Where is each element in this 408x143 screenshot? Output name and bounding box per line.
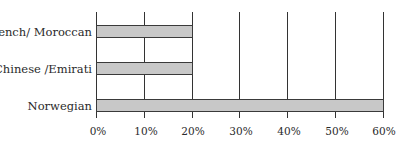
bar-chinese-emirati bbox=[96, 62, 193, 75]
x-tick-label: 0% bbox=[90, 125, 107, 137]
horizontal-bar-chart: French/ Moroccan Chinese /Emirati Norweg… bbox=[0, 0, 408, 143]
x-tick-label: 60% bbox=[372, 125, 395, 137]
category-label: Chinese /Emirati bbox=[0, 62, 92, 76]
category-label: Norwegian bbox=[28, 99, 92, 113]
bar-norwegian bbox=[96, 99, 384, 112]
x-tick-label: 10% bbox=[134, 125, 157, 137]
x-tick-label: 40% bbox=[277, 125, 300, 137]
bar-french-moroccan bbox=[96, 25, 193, 38]
x-tick-label: 30% bbox=[229, 125, 252, 137]
x-tick-label: 50% bbox=[325, 125, 348, 137]
category-label: French/ Moroccan bbox=[0, 25, 92, 39]
x-tick-label: 20% bbox=[181, 125, 204, 137]
